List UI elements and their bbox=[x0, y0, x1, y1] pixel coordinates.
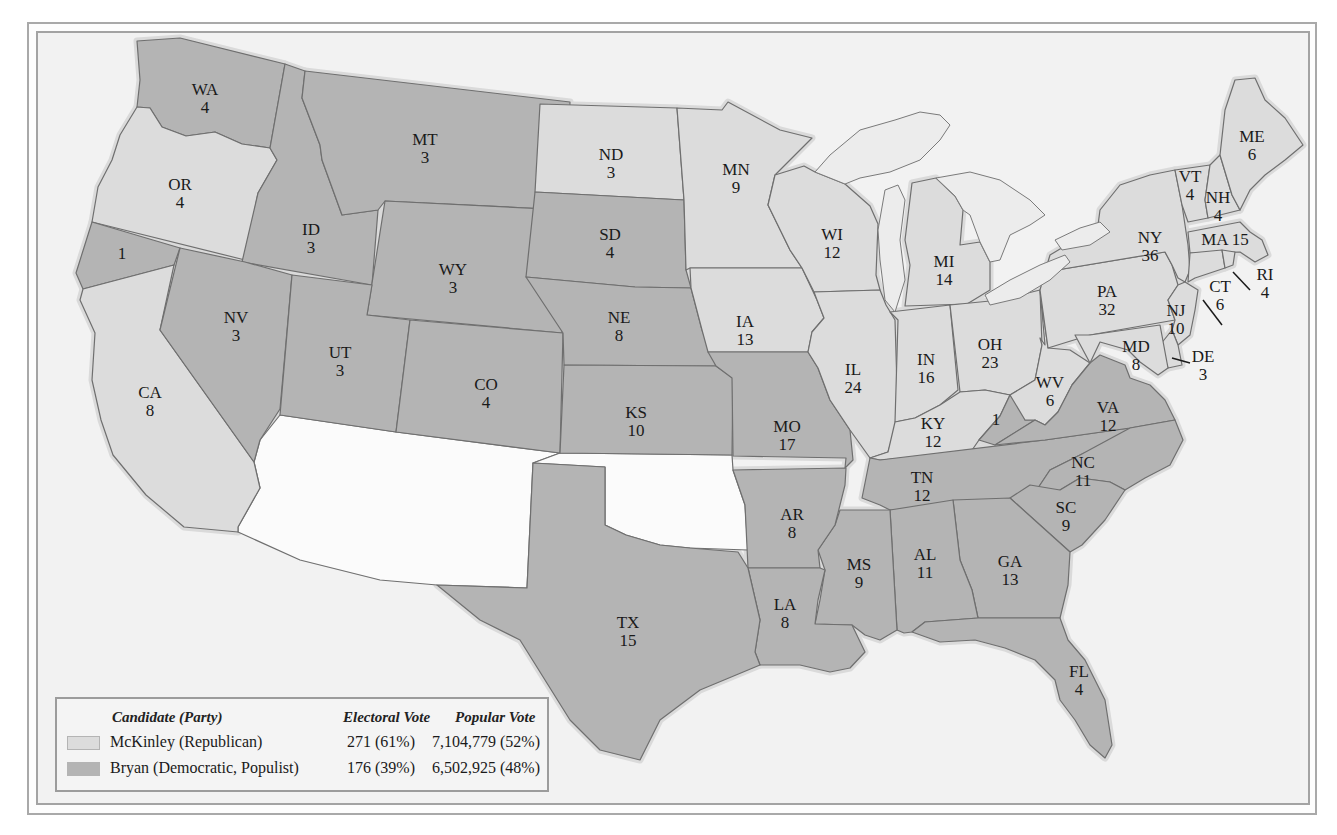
state-label: WI12 bbox=[821, 225, 843, 262]
state-label: IL24 bbox=[845, 360, 863, 397]
state-label: TX15 bbox=[617, 613, 640, 650]
legend-candidate: Bryan (Democratic, Populist) bbox=[110, 759, 299, 777]
legend-popular-vote: 7,104,779 (52%) bbox=[432, 733, 540, 751]
legend-candidate: McKinley (Republican) bbox=[110, 733, 262, 751]
legend-header-electoral: Electoral Vote bbox=[343, 709, 430, 726]
state-label: AL11 bbox=[914, 545, 937, 582]
state-label: DE3 bbox=[1192, 347, 1215, 384]
state-label: MA 15 bbox=[1201, 230, 1249, 249]
state-label: RI4 bbox=[1257, 265, 1274, 302]
state-label: MI14 bbox=[934, 252, 955, 289]
legend: Candidate (Party) Electoral Vote Popular… bbox=[55, 697, 549, 792]
state-label: CT6 bbox=[1209, 277, 1231, 314]
state-label: NJ10 bbox=[1167, 301, 1186, 338]
state-label: PA32 bbox=[1097, 282, 1118, 319]
state-ia bbox=[690, 268, 824, 352]
leader-line bbox=[1233, 272, 1250, 290]
state-label: 1 bbox=[118, 244, 127, 263]
state-label: IA13 bbox=[736, 312, 755, 349]
legend-header-popular: Popular Vote bbox=[455, 709, 535, 726]
legend-swatch-mckinley bbox=[67, 736, 100, 750]
legend-electoral-vote: 176 (39%) bbox=[347, 759, 415, 777]
legend-row-bryan: Bryan (Democratic, Populist) 176 (39%) 6… bbox=[57, 759, 547, 781]
state-label: VA12 bbox=[1097, 398, 1120, 435]
legend-electoral-vote: 271 (61%) bbox=[347, 733, 415, 751]
lake-superior bbox=[815, 112, 950, 184]
legend-popular-vote: 6,502,925 (48%) bbox=[432, 759, 540, 777]
legend-row-mckinley: McKinley (Republican) 271 (61%) 7,104,77… bbox=[57, 733, 547, 755]
legend-swatch-bryan bbox=[67, 762, 100, 776]
state-ri bbox=[1222, 250, 1235, 268]
state-label: 1 bbox=[992, 410, 1001, 429]
state-label: KS10 bbox=[625, 403, 647, 440]
state-label: TN12 bbox=[911, 468, 934, 505]
state-label: IN16 bbox=[917, 350, 935, 387]
legend-header-candidate: Candidate (Party) bbox=[112, 709, 222, 726]
